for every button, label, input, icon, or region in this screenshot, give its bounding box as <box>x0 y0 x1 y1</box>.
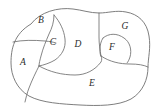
region-label-b: B <box>38 15 44 25</box>
region-label-f: F <box>108 42 115 52</box>
region-label-g: G <box>122 21 129 31</box>
region-partition-diagram: A B C D E F G <box>0 0 160 112</box>
region-label-e: E <box>88 78 95 88</box>
outer-boundary-path <box>11 9 150 106</box>
figure-root: A B C D E F G <box>0 0 160 112</box>
region-label-a: A <box>19 57 26 67</box>
region-label-c: C <box>50 37 57 47</box>
region-label-d: D <box>74 39 82 49</box>
